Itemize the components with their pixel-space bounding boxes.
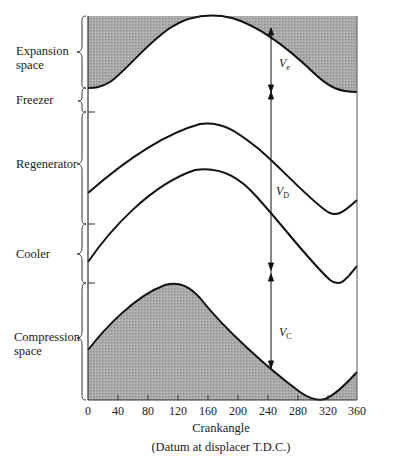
x-tick-label: 240 (259, 404, 277, 419)
x-tick-label: 40 (112, 404, 124, 419)
compression-space-area (88, 284, 357, 400)
label-line: Expansion (16, 44, 69, 58)
expansion-space-area (88, 15, 357, 92)
label-expansion-space: Expansion space (16, 44, 69, 72)
x-tick-label: 80 (142, 404, 154, 419)
x-tick-label: 160 (199, 404, 217, 419)
x-tick-label: 280 (289, 404, 307, 419)
label-line: space (14, 344, 80, 358)
volume-marker (269, 28, 274, 368)
x-tick-label: 0 (85, 404, 91, 419)
x-tick-label: 320 (319, 404, 337, 419)
label-compression-space: Compression space (14, 330, 80, 358)
vd-sub: D (283, 191, 289, 200)
ve-label: Ve (279, 56, 290, 72)
label-freezer: Freezer (16, 93, 53, 107)
label-cooler: Cooler (16, 247, 50, 261)
x-tick-label: 360 (348, 404, 366, 419)
x-tick-label: 200 (229, 404, 247, 419)
vd-label: VD (276, 184, 289, 200)
label-regenerator: Regenerator (16, 157, 77, 171)
ve-sub: e (286, 63, 290, 72)
vc-sub: C (286, 332, 291, 341)
x-tick-label: 120 (169, 404, 187, 419)
regenerator-cooler-curve (88, 169, 357, 283)
freezer-regenerator-curve (88, 124, 357, 215)
x-axis-label: Crankangle (192, 421, 250, 436)
label-line: space (16, 58, 69, 72)
label-line: Compression (14, 330, 80, 344)
figure-caption: (Datum at displacer T.D.C.) (151, 440, 290, 455)
vc-label: VC (279, 325, 292, 341)
